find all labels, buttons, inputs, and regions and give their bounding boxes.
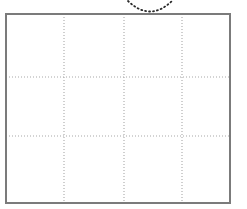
figure-canvas — [0, 0, 247, 209]
outer-rectangle-fill — [6, 14, 230, 203]
grid-diagram — [0, 0, 247, 209]
